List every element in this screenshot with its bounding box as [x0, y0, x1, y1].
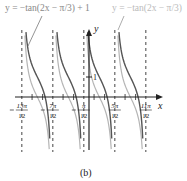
x-tick-denominator: 12 [111, 112, 119, 120]
leader-line-series1 [28, 16, 42, 46]
x-tick-numerator: 5π [111, 102, 119, 110]
x-tick-denominator: 12 [142, 112, 150, 120]
label-series2: y = −tan(2x − π/3) [112, 3, 182, 14]
y-axis-arrow [86, 29, 92, 36]
x-tick-numerator: π [82, 102, 86, 110]
y-tick-label-1: 1 [93, 73, 97, 82]
y-axis-label: y [93, 23, 99, 34]
x-axis-label: x [157, 100, 163, 111]
tangent-graph: 13π127π12π125π1211π12 y = −tan(2x − π/3)… [0, 0, 187, 181]
x-tick-numerator: 7π [49, 102, 57, 110]
label-series1: y = −tan(2x − π/3) + 1 [5, 3, 90, 14]
x-tick-numerator: 13π [17, 102, 28, 110]
x-tick-denominator: 12 [18, 112, 26, 120]
leader-line-series2 [118, 16, 124, 30]
x-tick-numerator: 11π [141, 102, 151, 110]
caption: (b) [80, 167, 92, 179]
x-tick-denominator: 12 [80, 112, 88, 120]
x-tick-denominator: 12 [49, 112, 57, 120]
